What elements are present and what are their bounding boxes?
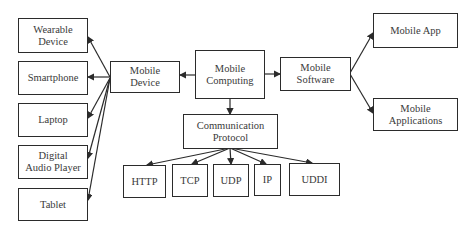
edge-protocol-udp <box>230 148 231 164</box>
edge-software-applications <box>350 74 373 113</box>
edge-device-wearable <box>88 37 110 77</box>
node-http: HTTP <box>123 165 166 198</box>
node-smartphone: Smartphone <box>18 61 88 95</box>
node-communication-protocol: Communication Protocol <box>183 114 278 149</box>
node-tcp: TCP <box>172 164 208 197</box>
node-uddi: UDDI <box>289 163 340 196</box>
edge-protocol-http <box>147 148 230 165</box>
edge-protocol-uddi <box>230 148 312 163</box>
node-tablet: Tablet <box>18 188 88 221</box>
edge-software-app <box>350 33 373 73</box>
node-mobile-computing: Mobile Computing <box>195 50 265 99</box>
edge-protocol-ip <box>230 148 266 164</box>
node-mobile-software: Mobile Software <box>280 57 351 91</box>
edge-protocol-tcp <box>192 148 230 164</box>
node-ip: IP <box>254 164 281 196</box>
node-mobile-applications: Mobile Applications <box>373 98 458 131</box>
node-digital-audio-player: Digital Audio Player <box>18 145 88 179</box>
node-mobile-device: Mobile Device <box>110 61 180 93</box>
node-udp: UDP <box>213 164 249 197</box>
node-wearable-device: Wearable Device <box>18 18 88 53</box>
node-laptop: Laptop <box>18 103 88 137</box>
edge-device-dap <box>88 78 110 158</box>
edge-device-tablet <box>88 78 110 200</box>
node-mobile-app: Mobile App <box>373 13 458 48</box>
